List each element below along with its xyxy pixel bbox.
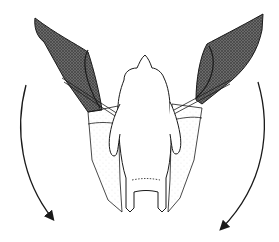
bat-wingbeat-diagram (0, 0, 279, 242)
right-upper-wing (196, 14, 263, 104)
left-downstroke-arrow (21, 85, 52, 218)
right-downstroke-arrow (222, 82, 264, 228)
bat-body (118, 55, 171, 212)
left-upper-wing (35, 18, 102, 112)
